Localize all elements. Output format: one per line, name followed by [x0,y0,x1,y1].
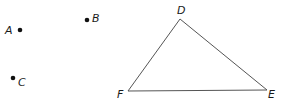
point-b-label: B [92,12,100,25]
triangle-def [128,19,267,91]
vertex-e-label: E [268,88,275,101]
point-b-dot [85,18,90,23]
vertex-d-label: D [177,4,185,17]
point-a-dot [18,28,23,33]
vertex-f-label: F [117,88,124,101]
geometry-diagram: A B C D E F [0,0,288,108]
point-c-label: C [18,76,26,89]
point-a-label: A [4,24,13,37]
point-c-dot [11,76,16,81]
